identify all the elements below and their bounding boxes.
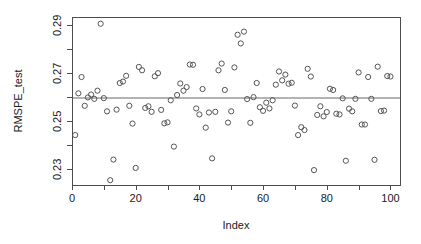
data-point <box>225 120 230 125</box>
y-axis-tick-labels: 0.230.250.270.29 <box>51 15 63 180</box>
data-point <box>194 106 199 111</box>
data-point <box>229 109 234 114</box>
data-point <box>264 100 269 105</box>
data-point <box>318 104 323 109</box>
data-point <box>343 158 348 163</box>
scatter-plot-figure: 0.230.250.270.29 020406080100 Index RMSP… <box>0 0 421 244</box>
data-point <box>283 72 288 77</box>
y-tick-label: 0.23 <box>51 159 63 180</box>
data-point <box>375 64 380 69</box>
data-point <box>235 32 240 37</box>
data-point <box>79 74 84 79</box>
data-point <box>114 107 119 112</box>
data-point <box>130 121 135 126</box>
data-point <box>200 86 205 91</box>
data-point <box>296 132 301 137</box>
data-point <box>95 88 100 93</box>
data-point <box>299 125 304 130</box>
data-point <box>254 80 259 85</box>
x-tick-label: 80 <box>321 192 333 204</box>
x-axis-title: Index <box>223 219 250 231</box>
data-point <box>308 74 313 79</box>
data-point <box>139 68 144 73</box>
data-point <box>174 92 179 97</box>
data-point <box>267 106 272 111</box>
data-point <box>248 120 253 125</box>
data-point <box>356 70 361 75</box>
data-point <box>366 74 371 79</box>
data-point <box>82 103 87 108</box>
data-point <box>216 68 221 73</box>
data-point <box>159 107 164 112</box>
data-point <box>210 156 215 161</box>
data-point <box>362 122 367 127</box>
data-point <box>76 91 81 96</box>
data-point <box>149 109 154 114</box>
data-point <box>190 62 195 67</box>
data-point <box>213 109 218 114</box>
data-point <box>232 65 237 70</box>
y-tick-label: 0.25 <box>51 111 63 132</box>
data-point <box>337 112 342 117</box>
data-point <box>108 178 113 183</box>
data-point <box>222 87 227 92</box>
x-tick-label: 40 <box>193 192 205 204</box>
data-point <box>260 108 265 113</box>
data-point <box>331 87 336 92</box>
data-point <box>133 165 138 170</box>
data-point <box>388 74 393 79</box>
data-points-group <box>73 21 393 183</box>
data-point <box>124 73 129 78</box>
plot-canvas: 0.230.250.270.29 020406080100 Index RMSP… <box>0 0 421 244</box>
data-point <box>327 86 332 91</box>
data-point <box>117 80 122 85</box>
data-point <box>311 168 316 173</box>
data-point <box>73 132 78 137</box>
plot-frame <box>73 18 401 186</box>
data-point <box>98 21 103 26</box>
data-point <box>302 127 307 132</box>
data-point <box>292 103 297 108</box>
x-tick-label: 0 <box>69 192 75 204</box>
y-axis-title: RMSPE_test <box>12 70 24 133</box>
data-point <box>127 103 132 108</box>
data-point <box>273 82 278 87</box>
y-axis-ticks <box>67 26 72 170</box>
y-tick-label: 0.27 <box>51 63 63 84</box>
data-point <box>203 125 208 130</box>
data-point <box>372 157 377 162</box>
data-point <box>104 109 109 114</box>
data-point <box>178 81 183 86</box>
data-point <box>171 144 176 149</box>
y-tick-label: 0.29 <box>51 15 63 36</box>
x-tick-label: 60 <box>257 192 269 204</box>
data-point <box>197 112 202 117</box>
data-point <box>165 120 170 125</box>
data-point <box>136 64 141 69</box>
data-point <box>152 74 157 79</box>
data-point <box>111 157 116 162</box>
data-point <box>184 84 189 89</box>
data-point <box>241 29 246 34</box>
data-point <box>305 66 310 71</box>
data-point <box>276 69 281 74</box>
data-point <box>324 109 329 114</box>
data-point <box>280 78 285 83</box>
x-tick-label: 20 <box>130 192 142 204</box>
data-point <box>206 110 211 115</box>
x-axis-tick-labels: 020406080100 <box>69 192 400 204</box>
data-point <box>315 112 320 117</box>
data-point <box>289 80 294 85</box>
data-point <box>238 41 243 46</box>
data-point <box>155 71 160 76</box>
data-point <box>120 79 125 84</box>
data-point <box>381 108 386 113</box>
x-tick-label: 100 <box>381 192 399 204</box>
data-point <box>219 61 224 66</box>
